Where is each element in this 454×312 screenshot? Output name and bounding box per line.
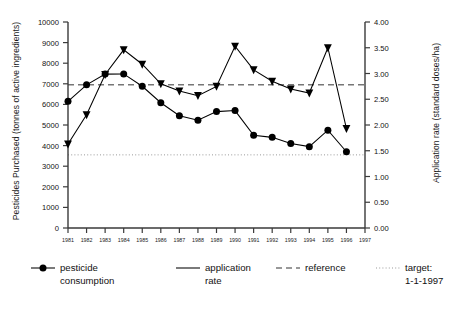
chart-figure: Pesticides Purchased (tonnes of active i… (0, 0, 454, 312)
y-tick-label-right: 4.00 (374, 18, 389, 27)
data-point (194, 117, 201, 124)
y-tick-label-left: 4000 (10, 141, 59, 150)
y-tick-label-right: 0.50 (374, 198, 389, 207)
data-point (65, 98, 72, 105)
data-point (324, 127, 331, 134)
data-point (250, 132, 257, 139)
x-tick-label: 1993 (285, 237, 297, 243)
y-tick-label-left: 9000 (10, 38, 59, 47)
data-point (287, 140, 294, 147)
legend-label-pesticide-consumption: pesticideconsumption (60, 261, 170, 287)
legend-swatch-pesticide-consumption (30, 262, 56, 273)
data-point (83, 111, 91, 119)
data-point (64, 140, 72, 148)
data-point (194, 92, 202, 100)
legend-label-line2: consumption (60, 274, 170, 287)
x-tick-label: 1984 (118, 237, 130, 243)
legend-swatch-application-rate (175, 262, 201, 273)
y-tick-label-left: 8000 (10, 59, 59, 68)
data-point (139, 83, 146, 90)
data-point (343, 148, 350, 155)
x-tick-label: 1994 (303, 237, 315, 243)
y-tick-label-right: 1.00 (374, 172, 389, 181)
y-tick-label-left: 6000 (10, 100, 59, 109)
x-tick-label: 1983 (99, 237, 111, 243)
y-tick-label-right: 2.50 (374, 95, 389, 104)
y-tick-label-left: 7000 (10, 79, 59, 88)
series-line (68, 74, 346, 152)
data-point (305, 90, 313, 98)
y-tick-label-right: 1.50 (374, 146, 389, 155)
x-tick-label: 1991 (248, 237, 260, 243)
data-point (213, 108, 220, 115)
x-tick-label: 1981 (62, 237, 74, 243)
series-application-rate (64, 43, 350, 149)
data-point (250, 66, 258, 74)
x-tick-label: 1985 (136, 237, 148, 243)
x-tick-label: 1995 (322, 237, 334, 243)
y-tick-label-left: 5000 (10, 121, 59, 130)
legend-label-target: target:1-1-1997 (405, 261, 454, 287)
x-tick-label: 1992 (266, 237, 278, 243)
x-tick-label: 1986 (155, 237, 167, 243)
y-tick-label-right: 3.00 (374, 69, 389, 78)
data-point (306, 143, 313, 150)
data-point (120, 70, 127, 77)
y-tick-label-right: 3.50 (374, 43, 389, 52)
legend-swatch-reference (275, 262, 301, 273)
data-point (232, 107, 239, 114)
y-tick-label-right: 2.00 (374, 121, 389, 130)
x-tick-label: 1996 (341, 237, 353, 243)
data-point (343, 125, 351, 133)
y-tick-label-left: 0 (10, 224, 59, 233)
data-point (324, 44, 332, 52)
y-tick-label-left: 3000 (10, 162, 59, 171)
x-tick-label: 1982 (81, 237, 93, 243)
data-point (157, 80, 165, 88)
y-tick-label-left: 1000 (10, 203, 59, 212)
y-tick-label-left: 2000 (10, 182, 59, 191)
x-tick-label: 1987 (173, 237, 185, 243)
legend-label-line2: 1-1-1997 (405, 274, 454, 287)
y-tick-label-right: 0.00 (374, 224, 389, 233)
data-point (176, 112, 183, 119)
y-tick-label-left: 10000 (10, 18, 59, 27)
x-tick-label: 1989 (211, 237, 223, 243)
data-point (269, 134, 276, 141)
data-point (83, 81, 90, 88)
data-point (157, 99, 164, 106)
x-tick-label: 1997 (359, 237, 371, 243)
x-tick-label: 1990 (229, 237, 241, 243)
series-line (68, 46, 346, 144)
data-point (213, 83, 221, 91)
legend-label-line1: target: (405, 261, 454, 274)
series-pesticide-consumption (65, 70, 350, 155)
legend-swatch-target (375, 262, 401, 273)
chart-legend: pesticideconsumptionapplicationraterefer… (30, 262, 440, 308)
legend-label-line1: pesticide (60, 261, 170, 274)
x-tick-label: 1988 (192, 237, 204, 243)
legend-label-line2: rate (205, 274, 315, 287)
